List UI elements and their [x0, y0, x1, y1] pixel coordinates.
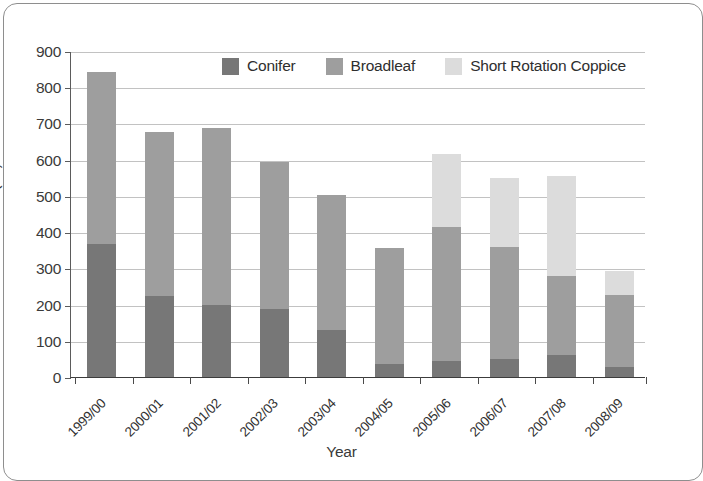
y-axis-tick-mark — [65, 88, 71, 89]
gridline — [71, 52, 645, 53]
y-axis-tick-label: 600 — [9, 152, 61, 170]
bar-stack — [317, 195, 346, 377]
y-axis-tick-mark — [65, 124, 71, 125]
bar-segment — [87, 244, 116, 377]
chart-legend: ConiferBroadleafShort Rotation Coppice — [222, 57, 626, 75]
bar-segment — [490, 359, 519, 377]
x-axis-tick-mark — [190, 377, 191, 384]
x-axis-tick-mark — [133, 377, 134, 384]
y-axis-tick-label: 900 — [9, 43, 61, 61]
y-axis-tick-mark — [65, 233, 71, 234]
bar-segment — [145, 132, 174, 296]
legend-swatch-icon — [445, 58, 462, 75]
y-axis-tick-label: 700 — [9, 115, 61, 133]
bar-stack — [547, 176, 576, 377]
bar-segment — [490, 178, 519, 248]
bar-stack — [605, 271, 634, 377]
bar-segment — [260, 309, 289, 377]
bar-segment — [317, 195, 346, 330]
y-axis-tick-mark — [65, 378, 71, 379]
legend-item: Broadleaf — [326, 57, 416, 75]
x-axis-tick-label: 2002/03 — [227, 396, 281, 450]
x-axis-tick-mark — [75, 377, 76, 384]
bar-stack — [202, 128, 231, 377]
bar-segment — [605, 295, 634, 367]
plot-area: 0100200300400500600700800900 — [70, 52, 645, 378]
y-axis-title: Area (ha) — [0, 163, 3, 228]
bar-segment — [375, 248, 404, 364]
gridline — [71, 124, 645, 125]
x-axis-tick-label: 2001/02 — [169, 396, 223, 450]
bar-segment — [87, 72, 116, 244]
bar-segment — [202, 305, 231, 377]
legend-label: Conifer — [247, 57, 296, 75]
bar-segment — [260, 162, 289, 309]
x-axis-tick-label: 2007/08 — [514, 396, 568, 450]
y-axis-tick-mark — [65, 342, 71, 343]
bar-stack — [87, 72, 116, 377]
x-axis-tick-mark — [593, 377, 594, 384]
bar-stack — [260, 162, 289, 377]
y-axis-tick-label: 500 — [9, 188, 61, 206]
legend-label: Broadleaf — [351, 57, 416, 75]
bar-segment — [547, 355, 576, 377]
bar-segment — [547, 176, 576, 276]
bar-segment — [432, 154, 461, 227]
x-axis-tick-mark — [363, 377, 364, 384]
bar-stack — [145, 132, 174, 377]
bar-segment — [605, 271, 634, 295]
x-axis-tick-label: 2003/04 — [284, 396, 338, 450]
y-axis-tick-label: 800 — [9, 79, 61, 97]
x-axis-tick-mark — [535, 377, 536, 384]
gridline — [71, 88, 645, 89]
legend-item: Short Rotation Coppice — [445, 57, 626, 75]
y-axis-tick-label: 200 — [9, 297, 61, 315]
x-axis-tick-label: 2005/06 — [399, 396, 453, 450]
y-axis-tick-label: 0 — [9, 369, 61, 387]
y-axis-tick-mark — [65, 197, 71, 198]
bar-segment — [432, 361, 461, 377]
x-axis-tick-label: 2000/01 — [112, 396, 166, 450]
y-axis-tick-mark — [65, 52, 71, 53]
x-axis-tick-label: 2004/05 — [342, 396, 396, 450]
x-axis-tick-label: 2008/09 — [572, 396, 626, 450]
x-axis-title: Year — [0, 443, 683, 461]
bar-segment — [375, 364, 404, 377]
bar-segment — [432, 227, 461, 360]
x-axis-tick-mark — [248, 377, 249, 384]
x-axis-tick-label: 1999/00 — [54, 396, 108, 450]
bar-segment — [317, 330, 346, 377]
bar-segment — [547, 276, 576, 355]
x-axis-tick-mark — [646, 377, 647, 384]
legend-item: Conifer — [222, 57, 296, 75]
bar-segment — [605, 367, 634, 377]
bar-segment — [490, 247, 519, 359]
bar-segment — [202, 128, 231, 305]
bar-stack — [490, 178, 519, 377]
bar-stack — [375, 248, 404, 377]
y-axis-tick-mark — [65, 269, 71, 270]
x-axis-tick-label: 2006/07 — [457, 396, 511, 450]
y-axis-tick-mark — [65, 161, 71, 162]
legend-swatch-icon — [222, 58, 239, 75]
x-axis-tick-mark — [305, 377, 306, 384]
y-axis-tick-label: 400 — [9, 224, 61, 242]
y-axis-tick-label: 100 — [9, 333, 61, 351]
y-axis-tick-label: 300 — [9, 260, 61, 278]
legend-label: Short Rotation Coppice — [470, 57, 626, 75]
x-axis-tick-mark — [478, 377, 479, 384]
bar-segment — [145, 296, 174, 377]
x-axis-tick-mark — [420, 377, 421, 384]
bar-stack — [432, 154, 461, 377]
y-axis-tick-mark — [65, 306, 71, 307]
legend-swatch-icon — [326, 58, 343, 75]
